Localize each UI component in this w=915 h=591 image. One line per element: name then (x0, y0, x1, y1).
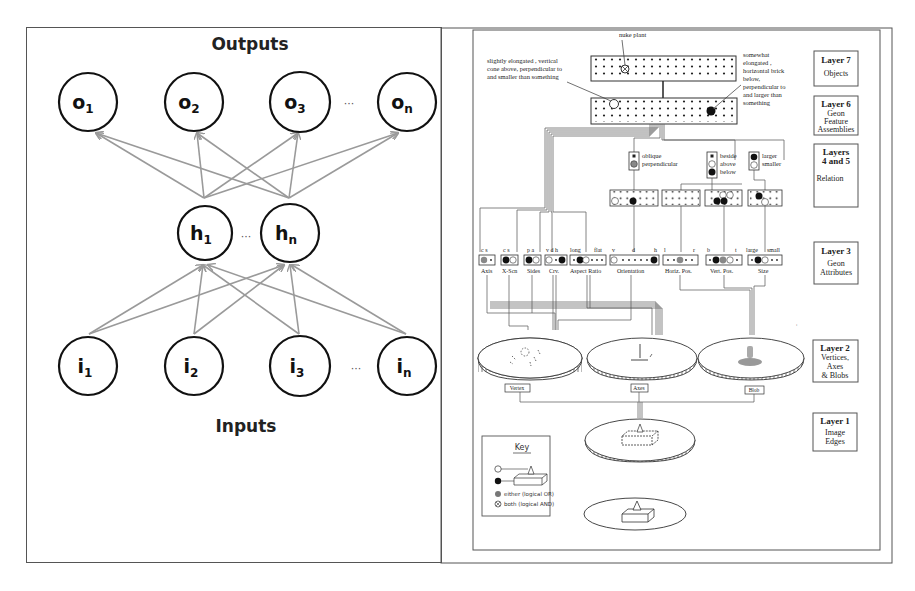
svg-text:Relation: Relation (816, 174, 843, 183)
svg-text:l: l (664, 247, 666, 253)
svg-text:long: long (570, 247, 581, 253)
right-annotation: somewhat elongated , horizontal brick be… (743, 51, 785, 106)
input-ellipsis: ··· (351, 362, 362, 375)
svg-text:somewhat: somewhat (743, 51, 770, 58)
layer2-layer1-wiring (520, 392, 754, 418)
svg-text:X-Scn: X-Scn (502, 268, 517, 274)
left-annotation-pointer (567, 82, 611, 101)
layer2-blob-map: Blob (698, 338, 804, 394)
svg-text:large: large (746, 247, 758, 253)
svg-text:Size: Size (758, 268, 769, 274)
output-node-labels: o1 o2 o3 on (72, 91, 413, 116)
inputs-title: Inputs (216, 416, 277, 436)
outputs-title: Outputs (211, 34, 288, 54)
svg-text:Layer 3: Layer 3 (821, 246, 851, 256)
layer-label-4-5: Layers 4 and 5 Relation (814, 144, 858, 207)
svg-text:oblique: oblique (642, 152, 662, 159)
relation-position: beside above below (707, 152, 737, 178)
svg-text:flat: flat (594, 247, 602, 253)
svg-text:Axis: Axis (481, 268, 493, 274)
layer1-edge-map (585, 419, 695, 462)
relation-wiring (634, 170, 765, 190)
svg-text:c s: c s (481, 247, 488, 253)
input-node-labels: i1 i2 i3 in (78, 355, 412, 380)
svg-text:Assemblies: Assemblies (818, 125, 855, 134)
layer6-units (591, 98, 737, 124)
svg-text:smaller: smaller (762, 160, 782, 167)
svg-text:beside: beside (720, 152, 737, 159)
svg-text:Edges: Edges (825, 437, 845, 446)
svg-text:h: h (654, 247, 657, 253)
key-title: Key (515, 443, 530, 452)
output-ellipsis: ··· (344, 97, 355, 110)
svg-text:Layer 7: Layer 7 (821, 55, 851, 65)
geon-attributes: c s c s p a v d h long flat v d h l r b … (479, 247, 782, 274)
svg-text:Orientation: Orientation (617, 268, 644, 274)
svg-text:Sides: Sides (527, 268, 541, 274)
svg-text:Image: Image (825, 428, 845, 437)
svg-text:cone above, perpendicular to: cone above, perpendicular to (487, 65, 562, 72)
svg-text:Aspect Ratio: Aspect Ratio (570, 268, 601, 274)
svg-text:v: v (612, 247, 615, 253)
svg-text:Layer 2: Layer 2 (820, 343, 850, 353)
svg-text:slightly elongated , vertical: slightly elongated , vertical (487, 57, 558, 64)
layer2-vertex-map: Vertex (478, 338, 582, 392)
layer-label-1: Layer 1 Image Edges (813, 413, 857, 451)
svg-text:v d h: v d h (546, 247, 558, 253)
svg-text:perpendicular to: perpendicular to (743, 83, 785, 90)
svg-text:Vertices,: Vertices, (821, 353, 849, 362)
layer2-axes-map: Axes (587, 338, 697, 392)
figure-canvas: Outputs Inputs o1 o2 o3 on ··· h1 hn ···… (0, 0, 915, 591)
layer-label-6: Layer 6 Geon Feature Assemblies (814, 96, 858, 135)
layer3-layer2-wiring (487, 275, 765, 335)
layer-label-2: Layer 2 Vertices, Axes & Blobs (813, 340, 858, 382)
relation-grids (610, 190, 782, 206)
svg-text:Objects: Objects (824, 69, 848, 78)
svg-text:Attributes: Attributes (820, 268, 852, 277)
svg-text:elongated ,: elongated , (743, 59, 772, 66)
svg-text:below: below (720, 168, 736, 175)
svg-text:Vertex: Vertex (510, 385, 525, 391)
left-annotation: slightly elongated , vertical cone above… (487, 57, 562, 80)
relation-size: larger smaller (749, 152, 782, 170)
svg-text:Crv.: Crv. (549, 268, 560, 274)
relation-oblique: oblique perpendicular (629, 152, 679, 170)
svg-text:and larger than: and larger than (743, 91, 783, 98)
layer7-units (591, 56, 736, 81)
svg-text:below,: below, (743, 75, 760, 82)
svg-text:Layer 6: Layer 6 (821, 99, 851, 109)
input-image (584, 498, 686, 530)
svg-text:d: d (632, 247, 635, 253)
svg-text:b: b (707, 247, 710, 253)
relation-grid-wiring (634, 206, 765, 252)
hidden-ellipsis: ··· (241, 230, 252, 243)
key-item-or: either (logical OR) (504, 491, 554, 498)
svg-text:perpendicular: perpendicular (642, 160, 679, 167)
svg-text:Geon: Geon (827, 259, 844, 268)
input-nodes (59, 336, 436, 396)
layer-label-7: Layer 7 Objects (814, 51, 858, 86)
svg-text:Vert. Pos.: Vert. Pos. (710, 268, 734, 274)
nuke-plant-label: nuke plant (619, 31, 646, 38)
svg-text:above: above (720, 160, 736, 167)
svg-text:and smaller than something: and smaller than something (487, 73, 559, 80)
svg-text:r: r (693, 247, 695, 253)
svg-text:Axes: Axes (633, 385, 644, 391)
svg-text:c s: c s (503, 247, 510, 253)
svg-text:larger: larger (762, 152, 778, 159)
svg-text:Blob: Blob (749, 387, 760, 393)
svg-text:Layer 1: Layer 1 (820, 416, 850, 426)
svg-text:something: something (743, 99, 771, 106)
stray-mark: ' (796, 323, 797, 329)
svg-text:p a: p a (527, 247, 535, 253)
output-nodes (59, 72, 436, 132)
svg-text:t: t (735, 247, 737, 253)
layer-label-3: Layer 3 Geon Attributes (814, 242, 858, 284)
svg-text:4 and 5: 4 and 5 (822, 156, 851, 166)
layer6-wiring (480, 124, 784, 252)
svg-text:& Blobs: & Blobs (822, 371, 849, 380)
key-legend: Key either (logical OR) both (logical AN… (482, 436, 554, 516)
svg-text:Horiz. Pos.: Horiz. Pos. (665, 268, 692, 274)
key-item-and: both (logical AND) (504, 501, 554, 508)
svg-text:small: small (767, 247, 780, 253)
